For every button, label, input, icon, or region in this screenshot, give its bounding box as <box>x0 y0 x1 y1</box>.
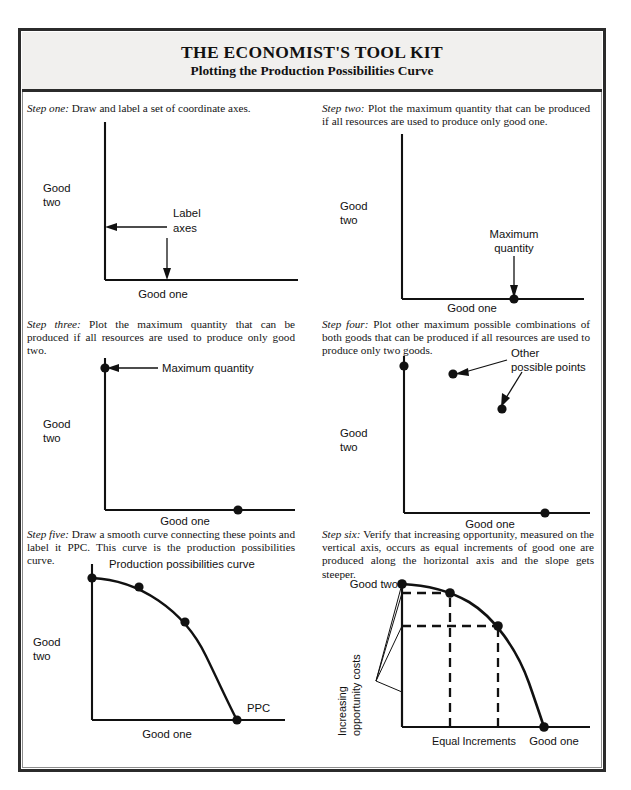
ppc-point-1 <box>445 588 455 598</box>
step-three-label: Step three: <box>27 318 81 330</box>
ppc-point-0 <box>87 573 96 582</box>
panel-step-three: Step three: Plot the maximum quantity th… <box>27 318 299 518</box>
step-three-chart: Maximum quantity Good two Good one <box>27 348 299 523</box>
y-axis-label-line2: two <box>33 650 51 662</box>
label-axes-line2: axes <box>173 222 197 234</box>
equal-increments-label: Equal Increments <box>432 735 517 747</box>
step-four-chart: Other possible points Good two Good one <box>322 352 594 520</box>
other-points-line1: Other <box>511 347 539 359</box>
max-quantity-line2: quantity <box>494 242 534 254</box>
x-axis-label: Good one <box>160 515 210 527</box>
increasing-opportunity-costs-line1: Increasing <box>336 686 348 736</box>
ppc-point-2 <box>493 621 503 631</box>
other-points-arrow-b-shaft <box>506 372 522 398</box>
y-axis-label-line1: Good <box>43 418 71 430</box>
x-axis-label: Good one <box>529 735 579 747</box>
opportunity-cost-leader-2 <box>376 593 402 681</box>
max-quantity-point-good-one <box>233 505 242 514</box>
step-two-caption: Step two: Plot the maximum quantity that… <box>322 102 590 128</box>
ppc-endpoint-label: PPC <box>247 702 270 714</box>
ppc-point-2 <box>180 617 189 626</box>
step-four-label: Step four: <box>322 318 368 330</box>
ppc-point-3 <box>540 508 549 517</box>
y-axis-label-line2: two <box>43 196 61 208</box>
step-six-chart: Good two Increasing opportunity costs Eq… <box>322 564 600 759</box>
ppc-point-3 <box>539 722 549 732</box>
step-one-text: Draw and label a set of coordinate axes. <box>69 102 251 114</box>
x-axis-label: Good one <box>142 728 192 740</box>
step-one-label: Step one: <box>27 102 69 114</box>
other-points-line2: possible points <box>511 361 586 373</box>
y-axis-label-line2: two <box>43 432 61 444</box>
max-quantity-arrow-head <box>107 364 119 372</box>
y-axis-label-line1: Good <box>340 200 368 212</box>
other-points-arrow-a-shaft <box>465 360 507 372</box>
page-title: THE ECONOMIST'S TOOL KIT <box>181 43 443 61</box>
y-axis-label-line2: two <box>340 441 358 453</box>
label-axes-line1: Label <box>173 207 201 219</box>
y-axis-label-line1: Good <box>43 182 71 194</box>
other-points-arrow-b-head <box>501 393 510 407</box>
y-axis-label-line1: Good <box>33 636 61 648</box>
step-two-chart: Maximum quantity Good two Good one <box>322 132 594 312</box>
step-two-label: Step two: <box>322 102 365 114</box>
page-subtitle: Plotting the Production Possibilities Cu… <box>190 64 433 78</box>
step-three-figure: Maximum quantity Good two Good one <box>27 348 299 523</box>
step-five-chart: Production possibilities curve PPC Good … <box>27 554 299 754</box>
step-one-caption: Step one: Draw and label a set of coordi… <box>27 102 295 115</box>
step-five-label: Step five: <box>27 528 69 540</box>
y-axis-label-line2: two <box>340 214 358 226</box>
label-axes-arrow-down-head <box>163 268 171 280</box>
ppc-curve <box>92 578 237 720</box>
step-six-label: Step six: <box>322 528 360 540</box>
y-axis-label-line1: Good <box>340 427 368 439</box>
step-one-figure: Label axes Good two Good one <box>27 120 299 310</box>
ppc-curve <box>402 584 544 727</box>
panel-step-five: Step five: Draw a smooth curve connectin… <box>27 528 299 758</box>
increasing-opportunity-costs-line2: opportunity costs <box>350 654 362 736</box>
ppc-point-1 <box>134 582 143 591</box>
opportunity-cost-leader-4 <box>376 681 402 692</box>
x-axis-label: Good one <box>138 288 188 300</box>
ppc-point-3 <box>232 715 241 724</box>
step-two-figure: Maximum quantity Good two Good one <box>322 132 594 312</box>
y-axis-label-inline: Good two <box>350 578 398 590</box>
panel-step-one: Step one: Draw and label a set of coordi… <box>27 102 299 307</box>
step-six-figure: Good two Increasing opportunity costs Eq… <box>322 564 600 759</box>
max-quantity-label: Maximum quantity <box>162 362 254 374</box>
panel-step-six: Step six: Verify that increasing opportu… <box>322 528 600 758</box>
x-axis-label: Good one <box>447 302 497 314</box>
step-five-figure: Production possibilities curve PPC Good … <box>27 554 299 754</box>
max-quantity-line1: Maximum <box>490 228 539 240</box>
ppc-curve-label: Production possibilities curve <box>109 558 255 570</box>
ppc-point-0 <box>399 361 408 370</box>
step-one-chart: Label axes Good two Good one <box>27 120 299 310</box>
toolkit-header: THE ECONOMIST'S TOOL KIT Plotting the Pr… <box>22 32 602 92</box>
step-four-figure: Other possible points Good two Good one <box>322 352 594 520</box>
panel-step-four: Step four: Plot other maximum possible c… <box>322 318 594 518</box>
panel-step-two: Step two: Plot the maximum quantity that… <box>322 102 594 307</box>
label-axes-arrow-left-head <box>105 223 117 231</box>
